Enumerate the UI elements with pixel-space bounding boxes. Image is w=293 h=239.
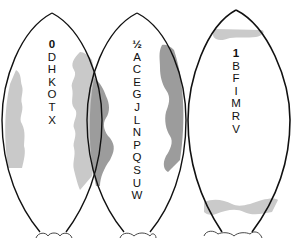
letter: L [134,114,140,127]
letter: W [132,189,143,202]
letter: X [48,114,56,127]
shape-0-knot-icon [36,233,72,238]
letter: H [48,63,56,76]
letter: Q [133,151,142,164]
letter: J [134,101,140,114]
letter: O [48,88,57,101]
shape-0-letter-column: 0 D H K O T X [44,38,60,126]
shape-1-top-shade [213,29,264,40]
letter: U [133,177,141,190]
letter: R [232,110,240,123]
shape-1-bottom-shade [204,199,278,215]
shape-0-left-shade [5,70,25,168]
letter: S [133,164,141,177]
letter: V [232,123,240,136]
letter: B [232,60,240,73]
letter: K [48,76,56,89]
shape-1-letter-column: 1 B F I M R V [228,47,244,135]
letter: T [48,101,55,114]
letter: M [231,97,241,110]
shape-1-header: 1 [233,47,239,60]
shape-half-letter-column: ½ A C E G J L N P Q S U W [129,38,145,202]
letter: D [48,51,56,64]
shape-1-knot-icon [204,231,262,238]
letter: C [133,63,141,76]
letter: F [232,72,239,85]
shape-0-header: 0 [49,38,55,51]
letter: E [133,76,141,89]
letter: P [133,139,141,152]
shape-half-knot-icon [120,233,156,238]
letter: N [133,126,141,139]
letter: G [133,88,142,101]
letter: A [133,51,141,64]
shape-half-right-shade [160,45,184,172]
shape-half-header: ½ [132,38,142,51]
letter: I [234,85,237,98]
